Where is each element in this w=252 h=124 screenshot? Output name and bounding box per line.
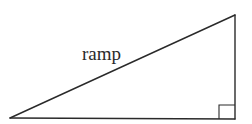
right-angle-marker <box>219 105 235 119</box>
right-triangle-diagram: ramp <box>0 0 252 124</box>
ramp-label: ramp <box>82 43 121 64</box>
ramp-hypotenuse <box>10 15 235 118</box>
triangle-base <box>10 118 235 119</box>
